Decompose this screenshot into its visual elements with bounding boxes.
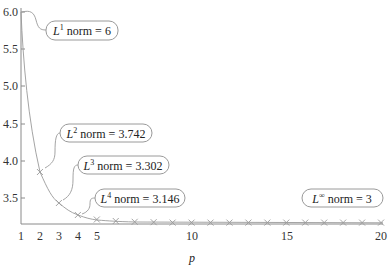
y-tick-label: 4.5 (3, 117, 18, 131)
svg-text:L2 norm = 3.742: L2 norm = 3.742 (66, 126, 146, 141)
x-tick-label: 2 (37, 229, 43, 243)
y-tick-label: 5.5 (3, 42, 18, 56)
y-tick-label: 3.5 (3, 191, 18, 205)
callout-linf: L∞ norm = 3 (302, 189, 383, 207)
y-tick-label: 4.0 (3, 154, 18, 168)
lp-norm-chart: 6.0 5.5 5.0 4.5 4.0 3.5 1 2 3 4 5 10 15 … (0, 0, 389, 268)
callout-l1: L1 norm = 6 (22, 11, 118, 40)
x-tick-label: 5 (94, 229, 100, 243)
svg-text:L4 norm = 3.146: L4 norm = 3.146 (100, 191, 180, 206)
x-tick-label: 20 (375, 229, 387, 243)
x-tick-label: 1 (18, 229, 24, 243)
x-ticks: 1 2 3 4 5 10 15 20 (18, 229, 387, 243)
x-tick-label: 4 (75, 229, 81, 243)
x-tick-label: 3 (56, 229, 62, 243)
y-tick-label: 6.0 (3, 5, 18, 19)
y-tick-label: 5.0 (3, 79, 18, 93)
x-tick-label: 15 (281, 229, 293, 243)
x-axis-label: p (188, 251, 195, 265)
svg-text:L3 norm = 3.302: L3 norm = 3.302 (83, 158, 163, 173)
callout-l4: L4 norm = 3.146 (82, 189, 185, 214)
x-tick-label: 10 (186, 229, 198, 243)
